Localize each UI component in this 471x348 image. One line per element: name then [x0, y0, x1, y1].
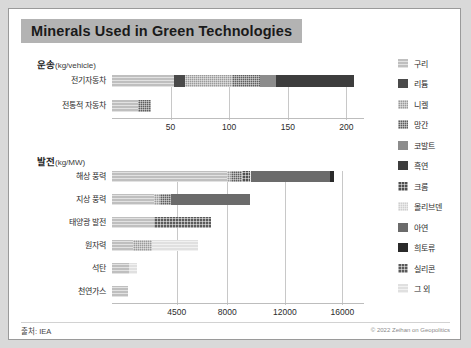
bar-segment [112, 171, 227, 182]
category-label: 석탄 [8, 264, 106, 274]
legend-label: 망간 [414, 119, 428, 130]
category-label: 원자력 [8, 241, 106, 251]
bar-segment [330, 171, 333, 182]
legend-item[interactable]: 망간 [398, 115, 442, 136]
section-label-power: 발전(kg/MW) [37, 154, 85, 168]
legend-item[interactable]: 희토류 [398, 238, 442, 259]
category-label: 해상 풍력 [8, 172, 106, 182]
legend-label: 코발트 [414, 140, 435, 151]
x-axis-tick-label: 16000 [317, 307, 367, 317]
bar-stack[interactable] [112, 263, 137, 274]
legend-swatch-icon [398, 79, 408, 88]
gridline [285, 171, 286, 305]
category-label: 전통적 자동차 [8, 101, 106, 111]
bar-stack[interactable] [112, 171, 334, 182]
legend-swatch-icon [398, 141, 408, 150]
x-axis-line [112, 303, 364, 304]
bar-segment [154, 217, 212, 228]
bar-segment [112, 194, 154, 205]
legend-swatch-icon [398, 120, 408, 129]
legend-item[interactable]: 실리콘 [398, 258, 442, 279]
legend-swatch-icon [398, 243, 408, 252]
x-axis-tick-label: 150 [263, 122, 313, 132]
source-note: 출처: IEA [21, 325, 51, 336]
legend-item[interactable]: 아연 [398, 217, 442, 238]
bar-stack[interactable] [112, 100, 151, 112]
bar-segment [112, 286, 128, 297]
bar-segment [138, 100, 151, 112]
x-axis-tick-label: 8000 [202, 307, 252, 317]
bar-segment [242, 171, 250, 182]
x-axis-tick-label: 100 [204, 122, 254, 132]
bar-segment [174, 75, 184, 87]
legend-swatch-icon [398, 182, 408, 191]
bar-stack[interactable] [112, 286, 128, 297]
section-title-transport: 운송 [37, 59, 55, 70]
legend-label: 니켈 [414, 99, 428, 110]
legend-item[interactable]: 코발트 [398, 135, 442, 156]
chart-legend: 구리리튬니켈망간코발트흑연크롬몰리브덴아연희토류실리콘그 외 [398, 53, 442, 299]
section-unit-power: (kg/MW) [55, 158, 85, 167]
chart-title-band: Minerals Used in Green Technologies [21, 19, 302, 43]
legend-swatch-icon [398, 264, 408, 273]
legend-label: 흑연 [414, 160, 428, 171]
legend-item[interactable]: 크롬 [398, 176, 442, 197]
bar-segment [251, 171, 330, 182]
legend-item[interactable]: 몰리브덴 [398, 197, 442, 218]
x-axis-line [112, 118, 364, 119]
gridline [227, 171, 228, 305]
bar-segment [276, 75, 354, 87]
legend-item[interactable]: 리튬 [398, 74, 442, 95]
x-axis-tick-label: 4500 [152, 307, 202, 317]
x-axis-tick-label: 200 [321, 122, 371, 132]
bar-segment [160, 194, 171, 205]
legend-swatch-icon [398, 223, 408, 232]
bar-segment [232, 75, 261, 87]
legend-swatch-icon [398, 161, 408, 170]
legend-label: 크롬 [414, 181, 428, 192]
legend-label: 실리콘 [414, 263, 435, 274]
bar-segment [112, 263, 129, 274]
x-axis-tick-label: 50 [146, 122, 196, 132]
legend-swatch-icon [398, 100, 408, 109]
section-unit-transport: (kg/vehicle) [55, 61, 96, 70]
copyright-note: © 2022 Zeihan on Geopolitics [371, 327, 450, 333]
gridline [177, 171, 178, 305]
legend-swatch-icon [398, 202, 408, 211]
chart-card: Minerals Used in Green Technologies 운송(k… [8, 8, 461, 340]
legend-swatch-icon [398, 59, 408, 68]
bar-segment [185, 75, 232, 87]
bar-segment [112, 217, 154, 228]
bar-stack[interactable] [112, 75, 354, 87]
category-label: 천연가스 [8, 287, 106, 297]
footer-divider [21, 322, 450, 323]
bar-stack[interactable] [112, 240, 198, 251]
bar-segment [152, 240, 198, 251]
legend-item[interactable]: 흑연 [398, 156, 442, 177]
legend-label: 몰리브덴 [414, 201, 442, 212]
gridline [342, 171, 343, 305]
bar-segment [129, 263, 138, 274]
category-label: 지상 풍력 [8, 195, 106, 205]
legend-label: 희토류 [414, 242, 435, 253]
bar-stack[interactable] [112, 217, 211, 228]
bar-segment [133, 240, 152, 251]
page-title: Minerals Used in Green Technologies [31, 23, 292, 39]
bar-stack[interactable] [112, 194, 250, 205]
bar-segment [231, 171, 242, 182]
category-label: 전기자동차 [8, 76, 106, 86]
legend-label: 아연 [414, 222, 428, 233]
legend-item[interactable]: 니켈 [398, 94, 442, 115]
bar-segment [112, 75, 174, 87]
legend-label: 구리 [414, 58, 428, 69]
legend-item[interactable]: 그 외 [398, 279, 442, 300]
bar-segment [260, 75, 276, 87]
section-label-transport: 운송(kg/vehicle) [37, 57, 96, 71]
legend-item[interactable]: 구리 [398, 53, 442, 74]
x-axis-tick-label: 12000 [260, 307, 310, 317]
legend-swatch-icon [398, 284, 408, 293]
bar-segment [112, 240, 133, 251]
legend-label: 그 외 [414, 283, 430, 294]
category-label: 태양광 발전 [8, 218, 106, 228]
bar-segment [171, 194, 250, 205]
